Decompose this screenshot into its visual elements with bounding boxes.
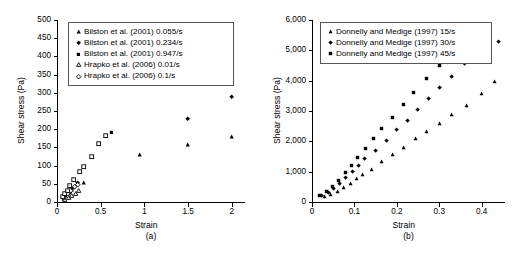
data-point: [75, 182, 80, 187]
panel-b: 01,0002,0003,0004,0005,0006,00000.10.20.…: [260, 0, 520, 277]
data-point: [426, 96, 431, 101]
figure: 05010015020025030035040045050000.511.52S…: [0, 0, 520, 277]
legend-label: Bilston et al. (2001) 0.055/s: [84, 28, 183, 36]
y-tick: [309, 81, 313, 82]
legend-item: Hrapko et al. (2006) 0.01/s: [73, 60, 228, 71]
x-tick: [232, 203, 233, 207]
data-point: [343, 175, 348, 180]
data-point: [356, 163, 361, 168]
data-point: [96, 141, 101, 146]
y-tick: [54, 111, 58, 112]
legend-label: Bilston et al. (2001) 0.947/s: [84, 50, 183, 58]
legend-label: Hrapko et al. (2006) 0.01/s: [84, 61, 180, 69]
legend-marker-icon: [325, 40, 336, 45]
x-tick: [144, 203, 145, 207]
data-point: [349, 163, 354, 168]
data-point: [71, 177, 76, 182]
x-tick-label: 0.4: [465, 208, 499, 216]
legend-label: Donnelly and Medige (1997) 45/s: [336, 50, 455, 58]
legend: Bilston et al. (2001) 0.055/sBilston et …: [68, 22, 234, 86]
x-axis-line: [57, 202, 245, 203]
data-point: [317, 193, 322, 198]
data-point: [390, 152, 395, 157]
y-tick-label: 150: [21, 143, 51, 151]
x-tick-label: 0: [295, 208, 329, 216]
x-tick-label: 2: [215, 208, 249, 216]
y-tick: [309, 141, 313, 142]
data-point: [449, 112, 454, 117]
data-point: [479, 91, 484, 96]
data-point: [229, 94, 234, 99]
data-point: [185, 116, 190, 121]
data-point: [371, 136, 376, 141]
x-tick-label: 1.5: [171, 208, 205, 216]
legend-item: Bilston et al. (2001) 0.055/s: [73, 26, 228, 37]
data-point: [354, 176, 359, 181]
y-tick: [54, 184, 58, 185]
y-tick: [54, 38, 58, 39]
y-tick-label: 6,000: [276, 16, 306, 24]
x-tick-label: 0.1: [337, 208, 371, 216]
x-axis-title: Strain: [135, 220, 157, 230]
data-point: [449, 74, 454, 79]
data-point: [379, 126, 384, 131]
data-point: [103, 133, 108, 138]
data-point: [360, 172, 365, 177]
legend-label: Hrapko et al. (2006) 0.1/s: [84, 72, 175, 80]
legend-label: Donnelly and Medige (1997) 30/s: [336, 39, 455, 47]
x-tick: [312, 203, 313, 207]
x-tick-label: 0.3: [422, 208, 456, 216]
data-point: [405, 118, 410, 123]
legend: Donnelly and Medige (1997) 15/sDonnelly …: [320, 22, 492, 64]
data-point: [348, 181, 353, 186]
data-point: [324, 189, 329, 194]
x-tick: [101, 203, 102, 207]
data-point: [464, 103, 469, 108]
x-tick: [354, 203, 355, 207]
legend-item: Bilston et al. (2001) 0.234/s: [73, 37, 228, 48]
y-tick: [54, 93, 58, 94]
data-point: [67, 183, 72, 188]
x-tick: [482, 203, 483, 207]
legend-marker-icon: [325, 51, 336, 56]
data-point: [437, 121, 442, 126]
data-point: [401, 145, 406, 150]
data-point: [350, 169, 355, 174]
data-point: [229, 134, 234, 139]
y-tick: [309, 50, 313, 51]
y-tick-label: 450: [21, 34, 51, 42]
data-point: [362, 156, 367, 161]
y-tick: [54, 129, 58, 130]
data-point: [437, 63, 442, 68]
y-tick: [54, 147, 58, 148]
x-tick: [57, 203, 58, 207]
legend-marker-icon: [325, 29, 336, 34]
data-point: [369, 167, 374, 172]
legend-item: Donnelly and Medige (1997) 30/s: [325, 37, 486, 48]
data-point: [81, 180, 86, 185]
data-point: [81, 164, 86, 169]
data-point: [437, 85, 442, 90]
x-tick: [397, 203, 398, 207]
y-tick-label: 0: [21, 198, 51, 206]
legend-marker-icon: [73, 40, 84, 45]
legend-label: Donnelly and Medige (1997) 15/s: [336, 28, 455, 36]
data-point: [496, 39, 501, 44]
y-tick-label: 50: [21, 180, 51, 188]
data-point: [77, 169, 82, 174]
data-point: [384, 138, 389, 143]
data-point: [424, 129, 429, 134]
x-tick: [439, 203, 440, 207]
x-axis-line: [312, 202, 505, 203]
y-tick: [54, 75, 58, 76]
panel-caption: (b): [379, 231, 439, 241]
x-tick: [188, 203, 189, 207]
legend-item: Donnelly and Medige (1997) 45/s: [325, 48, 486, 59]
data-point: [137, 152, 142, 157]
x-tick-label: 0.5: [84, 208, 118, 216]
y-tick-label: 100: [21, 162, 51, 170]
data-point: [413, 136, 418, 141]
legend-marker-icon: [73, 74, 84, 79]
data-point: [394, 127, 399, 132]
data-point: [401, 102, 406, 107]
